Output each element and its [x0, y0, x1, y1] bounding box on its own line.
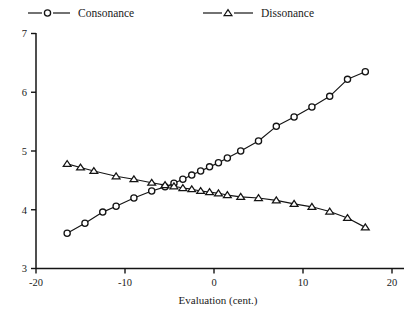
data-point-consonance-20 — [344, 76, 350, 82]
data-point-consonance-13 — [224, 155, 230, 161]
x-tick-label--20: -20 — [29, 277, 43, 288]
data-point-consonance-10 — [198, 168, 204, 174]
data-point-consonance-17 — [291, 114, 297, 120]
y-tick-label-6: 6 — [22, 87, 27, 98]
x-tick-label-0: 0 — [211, 277, 216, 288]
data-point-dissonance-0 — [63, 161, 71, 167]
x-tick-label--10: -10 — [118, 277, 132, 288]
x-tick-label-10: 10 — [298, 277, 309, 288]
y-tick-label-7: 7 — [22, 28, 27, 39]
x-axis-title: Evaluation (cent.) — [179, 294, 258, 307]
y-tick-label-3: 3 — [22, 263, 27, 274]
data-point-consonance-4 — [131, 195, 137, 201]
line-chart: 34567-20-1001020Evaluation (cent.)Conson… — [0, 0, 408, 318]
data-point-dissonance-21 — [361, 224, 369, 230]
y-tick-label-4: 4 — [22, 205, 28, 216]
data-point-consonance-19 — [327, 93, 333, 99]
data-point-consonance-0 — [64, 230, 70, 236]
legend-marker-consonance — [44, 10, 50, 16]
y-tick-label-5: 5 — [22, 146, 27, 157]
data-point-consonance-3 — [113, 203, 119, 209]
data-point-consonance-5 — [149, 188, 155, 194]
legend-marker-dissonance — [224, 10, 232, 16]
data-point-consonance-21 — [362, 69, 368, 75]
x-tick-label-20: 20 — [387, 277, 398, 288]
data-point-consonance-16 — [273, 123, 279, 129]
data-point-consonance-11 — [206, 164, 212, 170]
data-point-consonance-2 — [100, 209, 106, 215]
legend-label-dissonance: Dissonance — [261, 7, 314, 19]
data-point-consonance-9 — [189, 172, 195, 178]
data-point-consonance-1 — [82, 220, 88, 226]
legend-label-consonance: Consonance — [78, 7, 134, 19]
chart-figure: 34567-20-1001020Evaluation (cent.)Conson… — [0, 0, 408, 318]
data-point-consonance-18 — [309, 104, 315, 110]
data-point-consonance-15 — [255, 138, 261, 144]
data-point-consonance-12 — [215, 160, 221, 166]
data-point-consonance-14 — [238, 148, 244, 154]
data-point-consonance-8 — [180, 176, 186, 182]
